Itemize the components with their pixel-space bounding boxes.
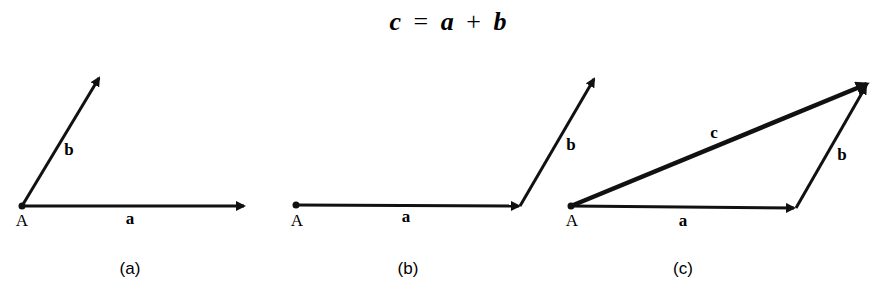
vector-a-arrow [296,205,519,206]
panel-b: A a b (b) [291,79,594,278]
vector-a-arrow [571,206,794,208]
vector-b-arrow [520,79,594,206]
vector-b-label: b [566,135,575,154]
origin-point [19,203,26,210]
vector-b-label: b [837,145,846,164]
origin-point [568,203,575,210]
panel-caption: (a) [120,259,141,278]
vector-c-arrow [571,84,867,206]
vector-a-label: a [679,211,688,230]
panel-caption: (c) [673,259,693,278]
vector-a-label: a [126,209,135,228]
origin-label: A [291,211,304,230]
panel-caption: (b) [398,259,419,278]
equation-equals: = [414,7,429,36]
equation-plus: + [466,7,481,36]
origin-point [293,202,300,209]
vector-b-label: b [64,140,73,159]
panel-c: A a b c (c) [566,84,867,278]
panel-a: A a b (a) [16,78,244,278]
equation-a: a [441,7,454,36]
equation-title: c = a + b [390,7,507,36]
equation-b: b [493,7,506,36]
vector-b-arrow [796,86,866,208]
vector-addition-diagram: c = a + b A a b (a) A a b (b) A a b c (c… [0,0,892,300]
vector-a-label: a [402,207,411,226]
origin-label: A [16,211,29,230]
vector-b-arrow [22,78,99,206]
equation-c: c [390,7,402,36]
origin-label: A [566,211,579,230]
vector-c-label: c [710,123,718,142]
